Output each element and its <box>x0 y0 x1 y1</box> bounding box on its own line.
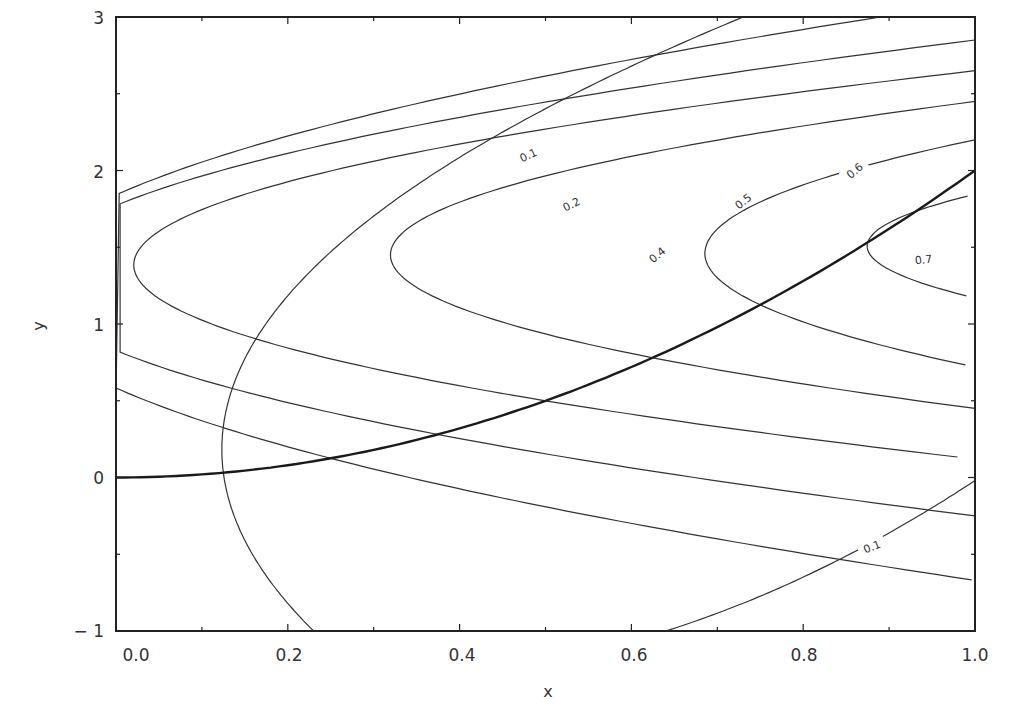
x-tick-labels: 0.0 0.2 0.4 0.6 0.8 1.0 <box>122 645 988 665</box>
contour-label: 0.7 <box>909 250 938 267</box>
contour-line-0-2 <box>116 17 972 580</box>
ridge-curve <box>116 171 975 478</box>
x-tick-label: 0.2 <box>275 645 302 665</box>
y-tick-label: − 1 <box>74 621 104 641</box>
y-tick-label: 3 <box>93 8 104 28</box>
contour-line-0-4 <box>134 71 975 457</box>
y-tick-label: 2 <box>93 162 104 182</box>
y-tick-labels: − 1 0 1 2 3 <box>74 8 104 641</box>
contour-label: 0.2 <box>555 191 587 217</box>
x-tick-label: 0.4 <box>448 645 475 665</box>
contour-label: 0.4 <box>641 240 672 269</box>
svg-text:0.7: 0.7 <box>914 253 933 267</box>
x-tick-label: 0.8 <box>790 645 817 665</box>
contour-labels: 0.10.20.40.50.60.70.1 <box>512 142 938 558</box>
contour-label: 0.6 <box>839 155 870 184</box>
y-tick-label: 1 <box>93 315 104 335</box>
contour-line-0-5 <box>391 101 976 408</box>
x-tick-label: 1.0 <box>961 645 988 665</box>
contour-lines <box>116 17 975 631</box>
contour-label: 0.1 <box>856 534 888 558</box>
x-axis-title: x <box>543 682 552 701</box>
x-tick-label: 0.6 <box>620 645 647 665</box>
contour-line-0-3 <box>120 40 975 516</box>
y-tick-label: 0 <box>93 468 104 488</box>
contour-line-0-1 <box>222 17 743 631</box>
contour-chart: 0.10.20.40.50.60.70.1 0.0 0.2 0.4 0.6 0.… <box>0 0 1015 714</box>
contour-label: 0.1 <box>512 142 544 167</box>
y-axis-title: y <box>29 321 48 330</box>
x-tick-label: 0.0 <box>122 645 149 665</box>
